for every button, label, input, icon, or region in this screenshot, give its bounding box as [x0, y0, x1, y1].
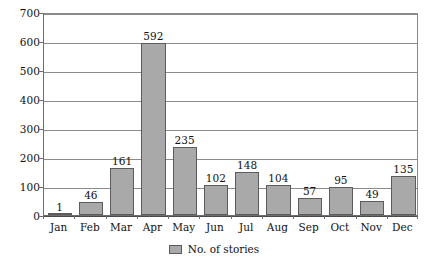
x-tick-label: Apr [137, 221, 168, 233]
plot-area: 146161592235102148104579549135 [43, 13, 418, 216]
y-tick-label: 700 [2, 8, 40, 19]
x-tick-label: Dec [387, 221, 418, 233]
bar[interactable] [141, 43, 165, 215]
x-tick-label: Jul [231, 221, 262, 233]
bar-slot: 95 [329, 14, 353, 215]
x-tick-label: Nov [356, 221, 387, 233]
y-tick-label: 600 [2, 37, 40, 48]
x-tick-label: Oct [324, 221, 355, 233]
bar[interactable] [298, 198, 322, 215]
bar-slot: 102 [204, 14, 228, 215]
y-tick-label: 400 [2, 95, 40, 106]
bar[interactable] [204, 185, 228, 215]
y-tick-label: 300 [2, 124, 40, 135]
y-tick-label: 100 [2, 182, 40, 193]
x-tick-label: Jun [199, 221, 230, 233]
x-tick-label: May [168, 221, 199, 233]
y-tick-label: 500 [2, 66, 40, 77]
x-tick-label: Feb [74, 221, 105, 233]
bar-chart-figure: 0100200300400500600700 14616159223510214… [0, 0, 428, 268]
x-tick-label: Jan [43, 221, 74, 233]
x-axis: JanFebMarAprMayJunJulAugSepOctNovDec [43, 219, 418, 237]
bar[interactable] [360, 201, 384, 215]
bar[interactable] [391, 176, 415, 215]
bar-slot: 235 [173, 14, 197, 215]
bar-slot: 1 [48, 14, 72, 215]
x-tick-label: Mar [106, 221, 137, 233]
bar[interactable] [48, 213, 72, 215]
bar-slot: 592 [141, 14, 165, 215]
bars-layer: 146161592235102148104579549135 [44, 14, 417, 215]
legend-entry: No. of stories [169, 243, 259, 255]
bar-slot: 148 [235, 14, 259, 215]
legend-swatch-icon [169, 245, 182, 254]
y-tick-label: 200 [2, 153, 40, 164]
bar-slot: 46 [79, 14, 103, 215]
bar[interactable] [110, 168, 134, 215]
chart-legend: No. of stories [0, 243, 428, 255]
bar-slot: 161 [110, 14, 134, 215]
bar[interactable] [79, 202, 103, 215]
y-axis: 0100200300400500600700 [0, 0, 40, 268]
x-tick-label: Aug [262, 221, 293, 233]
legend-label: No. of stories [188, 243, 259, 255]
bar-value-label: 135 [377, 164, 428, 175]
bar-slot: 135 [391, 14, 415, 215]
bar-slot: 104 [266, 14, 290, 215]
x-tick-label: Sep [293, 221, 324, 233]
bar-slot: 49 [360, 14, 384, 215]
